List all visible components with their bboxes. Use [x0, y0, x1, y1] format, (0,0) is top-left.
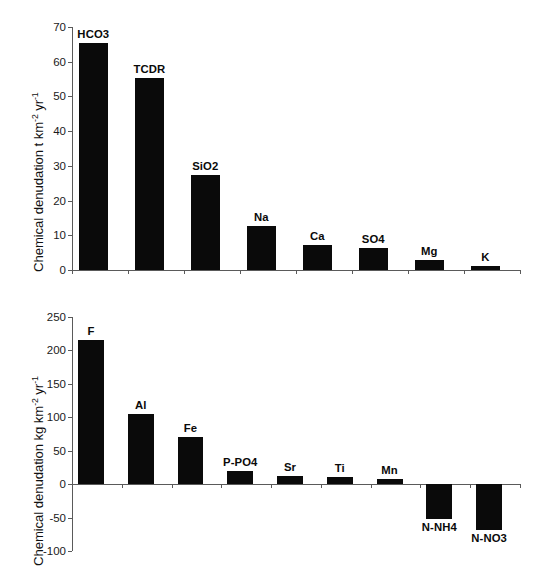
bar-f	[78, 340, 104, 484]
bar-label-al: Al	[135, 399, 147, 411]
bar-tcdr	[135, 78, 164, 270]
x-axis-tick	[72, 484, 73, 488]
bar-label-mn: Mn	[381, 464, 398, 476]
bar-mg	[415, 260, 444, 270]
y-axis-tick	[68, 417, 72, 418]
bar-p-po4	[227, 471, 253, 484]
x-axis-tick	[408, 270, 409, 274]
y-axis-tick	[68, 96, 72, 97]
bar-na	[247, 226, 276, 270]
x-axis-tick	[221, 484, 222, 488]
bar-label-n-nh4: N-NH4	[422, 521, 457, 533]
bar-label-mg: Mg	[421, 245, 438, 257]
x-axis-tick	[520, 484, 521, 488]
bar-sr	[277, 476, 303, 484]
y-axis-tick	[68, 131, 72, 132]
y-axis-tick	[68, 235, 72, 236]
y-axis-line	[72, 317, 73, 551]
y-axis-line	[72, 27, 73, 270]
x-axis-tick	[371, 484, 372, 488]
y-axis-tick	[68, 62, 72, 63]
bar-hco3	[79, 43, 108, 270]
bar-mn	[377, 479, 403, 484]
figure-root: Chemical denudation t km-2 yr-1 01020304…	[0, 0, 539, 588]
x-axis-tick	[352, 270, 353, 274]
y-axis-tick	[68, 317, 72, 318]
bar-label-ca: Ca	[310, 230, 325, 242]
x-axis-tick	[271, 484, 272, 488]
y-axis-tick	[68, 27, 72, 28]
bar-label-f: F	[87, 325, 94, 337]
bar-label-sio2: SiO2	[192, 160, 218, 172]
x-axis-tick	[240, 270, 241, 274]
x-axis-tick	[184, 270, 185, 274]
bar-label-fe: Fe	[184, 422, 197, 434]
x-axis-tick	[470, 484, 471, 488]
bar-sio2	[191, 175, 220, 270]
bar-label-n-no3: N-NO3	[471, 532, 507, 544]
bar-k	[471, 266, 500, 270]
y-axis-tick	[68, 201, 72, 202]
bar-label-p-po4: P-PO4	[223, 456, 257, 468]
x-axis-tick	[464, 270, 465, 274]
x-axis-tick	[321, 484, 322, 488]
bar-label-sr: Sr	[284, 461, 296, 473]
x-axis-tick	[122, 484, 123, 488]
bar-al	[128, 414, 154, 484]
bar-so4	[359, 248, 388, 270]
x-axis-tick	[172, 484, 173, 488]
bar-label-na: Na	[254, 211, 269, 223]
x-axis-tick	[520, 270, 521, 274]
x-axis-tick	[420, 484, 421, 488]
x-axis-tick	[296, 270, 297, 274]
plot-area-top: HCO3TCDRSiO2NaCaSO4MgK	[0, 0, 539, 294]
bar-label-k: K	[481, 251, 489, 263]
x-axis-tick	[72, 270, 73, 274]
bar-fe	[178, 437, 204, 484]
y-axis-tick	[68, 518, 72, 519]
bar-n-nh4	[426, 484, 452, 519]
bar-label-so4: SO4	[362, 233, 385, 245]
bar-label-tcdr: TCDR	[133, 63, 165, 75]
bar-label-hco3: HCO3	[77, 28, 109, 40]
chart-panel-bottom: Chemical denudation kg km-2 yr-1 -100-50…	[0, 294, 539, 588]
y-axis-tick	[68, 551, 72, 552]
y-axis-tick	[68, 166, 72, 167]
y-axis-tick	[68, 384, 72, 385]
bar-ti	[327, 477, 353, 484]
y-axis-tick	[68, 350, 72, 351]
bar-label-ti: Ti	[335, 462, 345, 474]
y-axis-tick	[68, 451, 72, 452]
bar-ca	[303, 245, 332, 270]
plot-area-bottom: FAlFeP-PO4SrTiMnN-NH4N-NO3	[0, 294, 539, 588]
bar-n-no3	[476, 484, 502, 529]
chart-panel-top: Chemical denudation t km-2 yr-1 01020304…	[0, 0, 539, 294]
x-axis-tick	[128, 270, 129, 274]
x-axis-line	[72, 484, 520, 485]
